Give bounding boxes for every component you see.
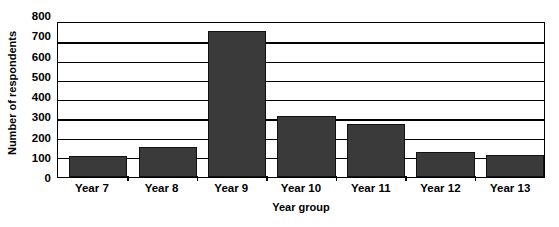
x-axis-tick-label: Year 12	[406, 182, 476, 200]
x-axis-tick-mark	[405, 176, 407, 181]
x-axis-tick-label: Year 7	[57, 182, 127, 200]
x-axis-tick-mark	[475, 176, 477, 181]
y-axis-title: Number of respondents	[0, 0, 24, 185]
x-axis-title: Year group	[57, 201, 545, 213]
bar	[416, 152, 474, 177]
y-axis-tick-label: 700	[32, 30, 51, 42]
bar-slot	[475, 23, 544, 177]
x-axis-tick-label: Year 10	[266, 182, 336, 200]
y-axis-tick-label: 500	[32, 71, 51, 83]
bar	[347, 124, 405, 177]
x-axis-tick-mark	[127, 176, 129, 181]
y-axis-tick-label: 0	[45, 172, 51, 184]
y-axis-tick-label: 600	[32, 51, 51, 63]
x-axis-tick-label: Year 13	[475, 182, 545, 200]
bar-slot	[266, 23, 335, 177]
x-axis-tick-mark	[336, 176, 338, 181]
bar-chart-figure: Number of respondents 010020030040050060…	[0, 0, 559, 227]
plot-area	[57, 22, 545, 178]
y-axis-tick-label: 100	[32, 152, 51, 164]
bar	[208, 31, 266, 177]
bar	[486, 155, 544, 177]
x-axis-tick-label: Year 9	[196, 182, 266, 200]
x-axis-tick-label: Year 11	[336, 182, 406, 200]
x-axis-tick-mark	[266, 176, 268, 181]
y-axis-tick-label: 300	[32, 111, 51, 123]
bar-slot	[127, 23, 196, 177]
bar-slot	[58, 23, 127, 177]
y-axis-tick-label: 400	[32, 91, 51, 103]
bar	[139, 147, 197, 177]
bar	[277, 116, 335, 177]
y-axis-tick-label: 200	[32, 132, 51, 144]
x-axis-tick-mark	[197, 176, 199, 181]
bar-slot	[405, 23, 474, 177]
bar-slot	[197, 23, 266, 177]
y-axis-tick-label: 800	[32, 10, 51, 22]
y-axis-tick-labels: 0100200300400500600700800	[24, 16, 54, 178]
bar-series	[58, 23, 544, 177]
bar	[69, 156, 127, 177]
bar-slot	[336, 23, 405, 177]
y-axis-title-text: Number of respondents	[6, 30, 18, 154]
x-axis-tick-labels: Year 7Year 8Year 9Year 10Year 11Year 12Y…	[57, 182, 545, 200]
x-axis-tick-label: Year 8	[127, 182, 197, 200]
